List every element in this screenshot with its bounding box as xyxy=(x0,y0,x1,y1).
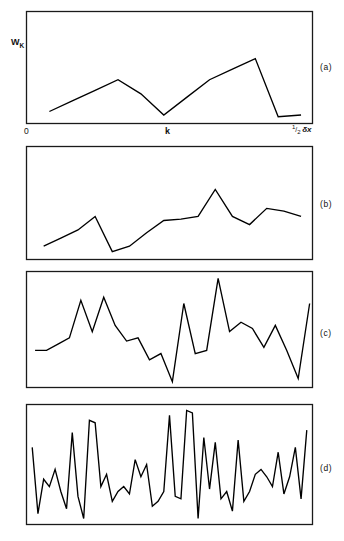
spectrum-figure: WK 0 k 1/2δx (a) (b) (c) (d) xyxy=(0,0,344,541)
panel-tag-d: (d) xyxy=(320,463,332,473)
panel-tag-a: (a) xyxy=(320,62,332,72)
x-axis-origin-label: 0 xyxy=(24,126,29,136)
panel-tag-b: (b) xyxy=(320,199,332,209)
panel-tag-c: (c) xyxy=(320,328,332,338)
x-axis-max-symbol: δx xyxy=(302,125,312,134)
y-axis-subscript: K xyxy=(20,42,25,49)
